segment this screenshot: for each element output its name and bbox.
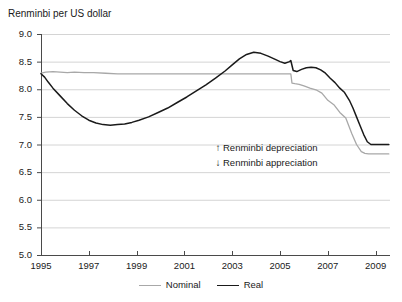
chart-legend: NominalReal — [0, 280, 402, 290]
chart-plot-area — [0, 0, 402, 302]
x-axis-tick-label: 1997 — [69, 261, 109, 271]
legend-item-nominal: Nominal — [139, 280, 201, 290]
x-axis-tick-label: 1995 — [21, 261, 61, 271]
y-axis-tick-label: 5.0 — [6, 250, 32, 260]
y-axis-tick-label: 9.0 — [6, 29, 32, 39]
y-axis-tick-label: 7.5 — [6, 112, 32, 122]
y-axis-tick-label: 6.0 — [6, 195, 32, 205]
x-axis-tick-label: 2007 — [308, 261, 348, 271]
legend-label-real: Real — [244, 280, 264, 290]
y-axis-tick-label: 7.0 — [6, 140, 32, 150]
y-axis-tick-label: 8.0 — [6, 84, 32, 94]
x-axis-tick-label: 2001 — [164, 261, 204, 271]
annotation-depreciation-label: Renminbi depreciation — [223, 142, 318, 153]
legend-swatch-nominal — [139, 285, 161, 286]
y-axis-tick-label: 6.5 — [6, 167, 32, 177]
x-axis-tick-label: 1999 — [117, 261, 157, 271]
x-axis-tick-label: 2005 — [260, 261, 300, 271]
x-axis-tick-label: 2009 — [356, 261, 396, 271]
legend-swatch-real — [217, 285, 239, 286]
series-line-real — [41, 52, 389, 144]
chart-container: Renminbi per US dollar 9.08.58.07.57.06.… — [0, 0, 402, 302]
annotation-depreciation: ↑Renminbi depreciation — [213, 142, 318, 154]
y-axis-tick-label: 8.5 — [6, 57, 32, 67]
x-axis-tick-label: 2003 — [212, 261, 252, 271]
arrow-down-icon: ↓ — [213, 157, 223, 169]
legend-label-nominal: Nominal — [166, 280, 201, 290]
y-axis-tick-label: 5.5 — [6, 222, 32, 232]
annotation-appreciation: ↓Renminbi appreciation — [213, 157, 318, 169]
legend-item-real: Real — [217, 280, 264, 290]
annotation-appreciation-label: Renminbi appreciation — [223, 157, 318, 168]
arrow-up-icon: ↑ — [213, 142, 223, 154]
